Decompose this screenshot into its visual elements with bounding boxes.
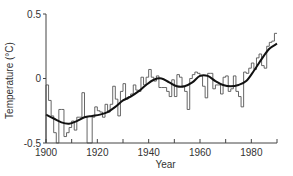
y-tick-label: 0.5 — [27, 9, 41, 20]
x-axis-label: Year — [155, 159, 176, 170]
x-tick-label: 1960 — [189, 147, 212, 158]
annual-anomaly-step-line — [46, 33, 277, 143]
y-ticks: 0.50-0.5 — [24, 9, 46, 149]
x-tick-label: 1940 — [138, 147, 161, 158]
temperature-chart: 19001920194019601980 0.50-0.5 Year Tempe… — [0, 0, 293, 176]
y-axis-label: Temperature (°C) — [4, 42, 15, 119]
x-tick-label: 1900 — [35, 147, 58, 158]
smoothed-trend-line — [46, 44, 277, 124]
x-tick-label: 1920 — [86, 147, 109, 158]
plot-series — [46, 33, 277, 143]
x-ticks: 19001920194019601980 — [35, 139, 277, 158]
y-tick-label: 0 — [35, 73, 41, 84]
axes: 19001920194019601980 0.50-0.5 — [24, 9, 277, 159]
x-tick-label: 1980 — [240, 147, 263, 158]
y-tick-label: -0.5 — [24, 138, 42, 149]
